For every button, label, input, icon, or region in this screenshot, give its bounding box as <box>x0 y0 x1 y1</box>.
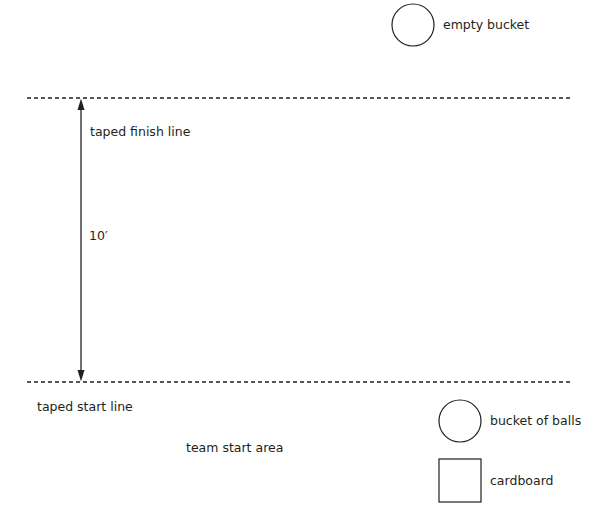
bucket-of-balls-label: bucket of balls <box>490 413 581 428</box>
arrowhead-down-icon <box>78 370 85 382</box>
empty-bucket-icon <box>392 4 434 46</box>
distance-arrow <box>78 99 85 382</box>
finish-line-label: taped finish line <box>90 124 190 139</box>
start-line-label: taped start line <box>37 399 133 414</box>
empty-bucket-label: empty bucket <box>443 17 529 32</box>
course-diagram <box>0 0 604 526</box>
cardboard-icon <box>439 459 481 502</box>
arrowhead-up-icon <box>78 99 85 111</box>
cardboard-label: cardboard <box>490 473 553 488</box>
distance-label: 10′ <box>89 228 108 243</box>
team-start-area-label: team start area <box>186 440 283 455</box>
bucket-of-balls-icon <box>439 400 481 442</box>
